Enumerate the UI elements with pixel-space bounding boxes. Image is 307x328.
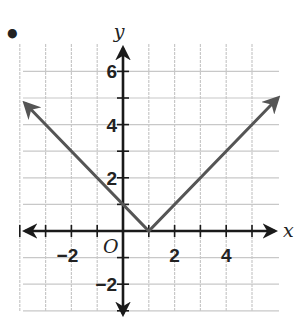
graph: •−224642−2yxO bbox=[0, 0, 307, 328]
function-graph bbox=[25, 98, 278, 231]
origin-label: O bbox=[103, 235, 119, 257]
x-axis-label: x bbox=[283, 219, 294, 241]
y-tick-label: 6 bbox=[106, 61, 117, 82]
y-tick-label: 2 bbox=[106, 168, 117, 189]
x-tick-label: 2 bbox=[169, 245, 180, 266]
y-tick-label: −2 bbox=[95, 274, 117, 295]
y-tick-label: 4 bbox=[106, 115, 117, 136]
x-tick-label: 4 bbox=[221, 245, 232, 266]
y-axis-label: y bbox=[113, 20, 125, 42]
x-tick-label: −2 bbox=[57, 245, 79, 266]
problem-marker: • bbox=[4, 20, 21, 50]
